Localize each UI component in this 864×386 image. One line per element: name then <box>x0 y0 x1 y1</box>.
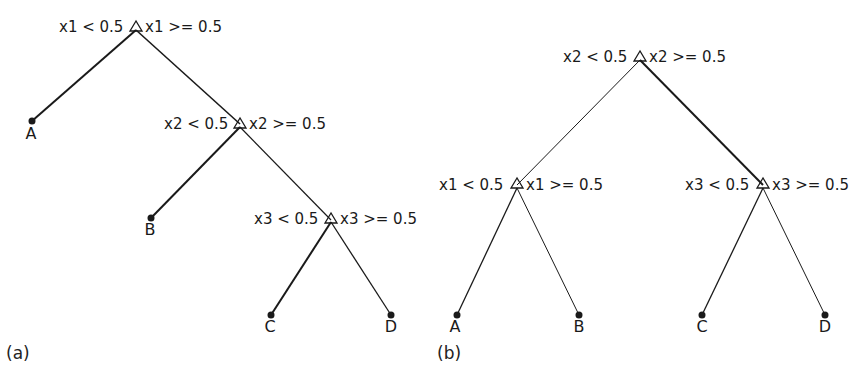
leaf-label: B <box>574 319 585 335</box>
split-label-left: x3 < 0.5 <box>254 212 318 227</box>
edge-b-root-to-x3 <box>640 60 763 185</box>
split-node-icon <box>511 178 523 188</box>
split-label-right: x2 >= 0.5 <box>249 117 326 132</box>
edge-b-x1-to-A <box>457 188 517 315</box>
split-label-left: x1 < 0.5 <box>439 178 503 193</box>
leaf-label: A <box>26 126 37 142</box>
panel-caption: (a) <box>6 345 30 362</box>
split-label-right: x1 >= 0.5 <box>145 20 222 35</box>
edge-a-root-to-A <box>32 30 136 121</box>
edge-b-x3-to-D <box>763 188 825 315</box>
edge-b-x1-to-B <box>517 188 579 315</box>
edge-b-root-to-x1 <box>517 60 640 185</box>
split-node-icon <box>325 213 337 223</box>
split-label-left: x2 < 0.5 <box>164 117 228 132</box>
split-label-right: x3 >= 0.5 <box>340 212 417 227</box>
edge-a-x3-to-C <box>271 222 331 315</box>
split-label-left: x2 < 0.5 <box>563 50 627 65</box>
split-label-right: x3 >= 0.5 <box>772 178 849 193</box>
edge-a-x2-to-x3 <box>240 127 331 220</box>
edge-a-x3-to-D <box>331 222 391 315</box>
panel-caption: (b) <box>437 345 461 362</box>
split-node-icon <box>634 51 646 61</box>
edge-a-root-to-x2 <box>136 30 240 124</box>
split-label-left: x3 < 0.5 <box>685 178 749 193</box>
split-label-right: x2 >= 0.5 <box>649 50 726 65</box>
leaf-label: D <box>819 319 831 335</box>
leaf-label: C <box>696 319 707 335</box>
edge-a-x2-to-B <box>151 127 240 218</box>
leaf-label: C <box>264 319 275 335</box>
leaf-label: D <box>385 319 397 335</box>
edge-b-x3-to-C <box>702 188 763 315</box>
leaf-label: B <box>145 222 156 238</box>
split-label-right: x1 >= 0.5 <box>526 178 603 193</box>
split-label-left: x1 < 0.5 <box>59 20 123 35</box>
leaf-label: A <box>450 319 461 335</box>
split-node-icon <box>130 21 142 31</box>
